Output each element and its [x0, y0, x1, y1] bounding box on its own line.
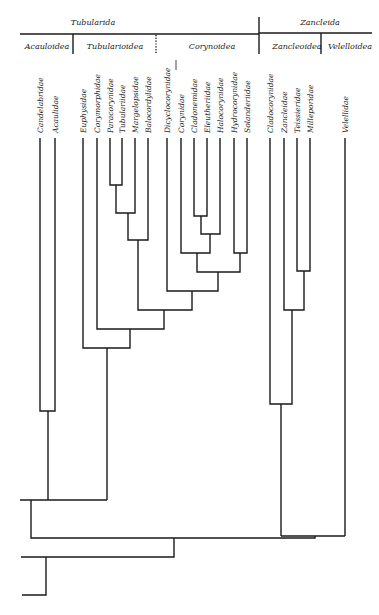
- tree-branches: [20, 138, 345, 595]
- cladogram-figure: Tubularida Zancleida Acauloidea Tubulari…: [0, 0, 379, 615]
- cladogram-lines: [0, 0, 379, 615]
- header-rules: [20, 17, 372, 70]
